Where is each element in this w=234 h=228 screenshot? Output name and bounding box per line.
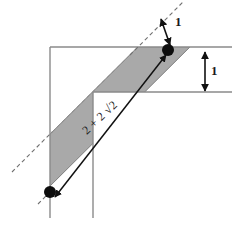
figure-canvas bbox=[0, 0, 234, 228]
lower-vertex-dot bbox=[44, 186, 56, 198]
dashed-construction-line bbox=[12, 1, 184, 204]
right-height-label: 1 bbox=[211, 64, 218, 77]
top-offset-dimension bbox=[161, 19, 170, 45]
upper-vertex-dot bbox=[162, 44, 174, 56]
top-offset-arrow bbox=[161, 19, 170, 45]
dashed-segment-lower-left bbox=[12, 132, 52, 172]
geometry-figure: 1 1 2 + 2 √2 bbox=[0, 0, 234, 228]
top-offset-label: 1 bbox=[175, 15, 182, 28]
band-edge-lower bbox=[36, 32, 205, 200]
